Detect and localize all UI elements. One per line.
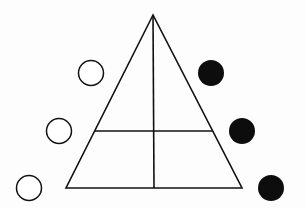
filled-circle-1 [198,60,224,86]
open-circles-group [17,61,104,201]
filled-circle-3 [258,175,284,201]
diagram-canvas [0,0,305,208]
vertical-divider-line [153,15,154,188]
open-circle-1 [79,61,104,86]
filled-circle-2 [229,118,255,144]
open-circle-3 [17,176,42,201]
open-circle-2 [47,119,72,144]
triangle-circles-diagram [0,0,305,208]
